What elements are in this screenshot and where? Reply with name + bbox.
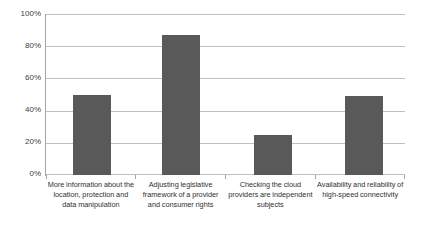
x-axis-tick-3 (315, 175, 316, 179)
x-axis-label-more-information: More information about the location, pro… (46, 180, 136, 238)
x-axis-tick-0 (46, 175, 47, 179)
y-axis-tick-label-0: 0% (0, 170, 41, 178)
y-axis-tick-label-60: 60% (0, 74, 41, 82)
x-axis-tick-2 (225, 175, 226, 179)
y-axis-tick-label-20: 20% (0, 138, 41, 146)
gridline-80 (46, 46, 405, 47)
plot-area (46, 14, 405, 175)
x-axis-label-checking-cloud-providers: Checking the cloud providers are indepen… (226, 180, 316, 238)
y-axis-tick-label-80: 80% (0, 42, 41, 50)
bar-availability-reliability[interactable] (345, 96, 383, 175)
y-axis-tick-label-40: 40% (0, 106, 41, 114)
x-axis-category-labels: More information about the location, pro… (46, 180, 405, 238)
gridline-60 (46, 78, 405, 79)
x-axis-label-adjusting-legislative: Adjusting legislative framework of a pro… (136, 180, 226, 238)
x-axis-label-availability-reliability: Availability and reliability of high-spe… (315, 180, 405, 238)
y-axis-tick-label-100: 100% (0, 10, 41, 18)
gridline-100 (46, 14, 405, 15)
bar-adjusting-legislative[interactable] (162, 35, 200, 175)
x-axis-tick-4 (404, 175, 405, 179)
bar-chart: 100% 80% 60% 40% 20% 0% More information… (0, 0, 428, 241)
bar-more-information[interactable] (73, 95, 111, 176)
bar-checking-cloud-providers[interactable] (254, 135, 292, 175)
x-axis-tick-1 (135, 175, 136, 179)
